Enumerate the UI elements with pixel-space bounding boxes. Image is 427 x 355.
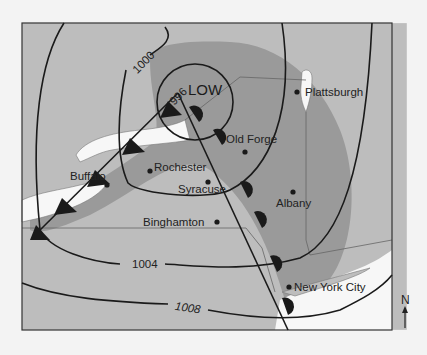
city-dot-albany [290, 189, 295, 194]
city-label-binghamton: Binghamton [143, 216, 204, 228]
city-label-rochester: Rochester [154, 161, 207, 173]
city-dot-rochester [147, 168, 152, 173]
city-label-old-forge: Old Forge [226, 133, 277, 145]
north-label: N [401, 293, 410, 307]
city-label-buffalo: Buffalo [70, 170, 106, 182]
city-dot-old-forge-marker [242, 149, 247, 154]
weather-map: 1000 996 1004 1008 LOW Plattsburgh Old F… [0, 0, 427, 355]
isobar-label-1004: 1004 [132, 258, 158, 270]
city-label-albany: Albany [276, 197, 311, 209]
low-pressure-label: LOW [188, 81, 223, 98]
city-dot-old-forge [219, 135, 224, 140]
city-label-syracuse: Syracuse [178, 183, 226, 195]
city-label-plattsburgh: Plattsburgh [305, 86, 363, 98]
city-dot-new-york-city [286, 284, 291, 289]
city-dot-buffalo [104, 182, 109, 187]
city-dot-binghamton [214, 219, 219, 224]
city-dot-plattsburgh [294, 89, 299, 94]
city-label-new-york-city: New York City [294, 281, 366, 293]
